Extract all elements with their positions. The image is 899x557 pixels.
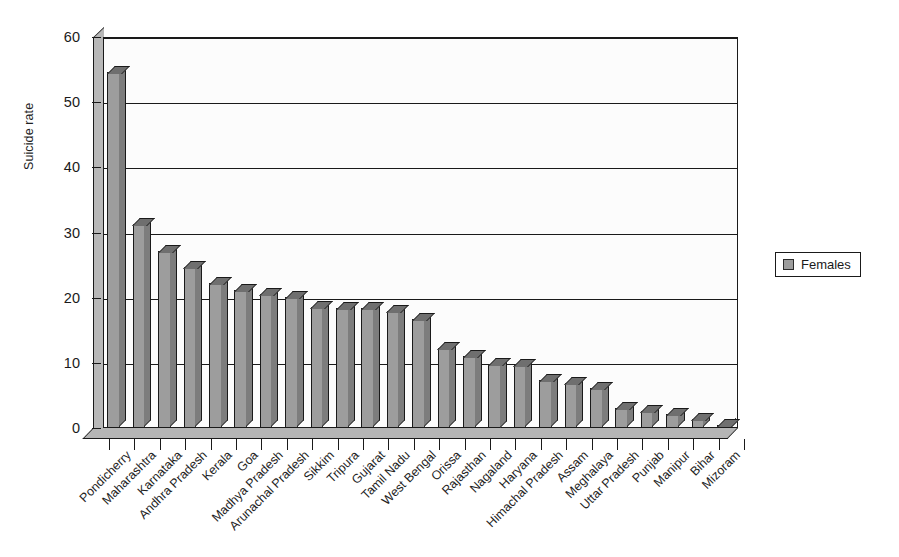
bar-side-face	[297, 291, 304, 427]
bar-top-face	[488, 358, 511, 366]
x-tick-mark	[211, 439, 212, 450]
x-tick-mark	[592, 439, 593, 450]
bar-top-face	[412, 313, 435, 321]
bar-side-face	[373, 302, 380, 427]
bar[interactable]	[387, 311, 400, 428]
bar[interactable]	[565, 383, 578, 428]
bar-top-face	[717, 419, 740, 427]
x-tick-mark	[261, 439, 262, 450]
bar-top-face	[564, 377, 587, 385]
bar-top-face	[310, 301, 333, 309]
y-tick-label: 50	[46, 95, 80, 110]
bar-side-face	[398, 305, 405, 427]
y-tick-mark	[92, 37, 101, 38]
bar[interactable]	[336, 308, 349, 428]
bar[interactable]	[514, 365, 527, 428]
bar-top-face	[615, 402, 638, 410]
x-tick-mark	[312, 439, 313, 450]
bar[interactable]	[184, 267, 197, 428]
bar-top-face	[437, 342, 460, 350]
bar[interactable]	[107, 72, 120, 428]
bar[interactable]	[209, 283, 222, 428]
x-tick-mark	[363, 439, 364, 450]
x-tick-mark	[465, 439, 466, 450]
y-tick-label: 40	[46, 160, 80, 175]
x-tick-mark	[719, 439, 720, 450]
x-tick-mark	[134, 439, 135, 450]
y-tick-label: 20	[46, 291, 80, 306]
bar[interactable]	[133, 224, 146, 428]
bar[interactable]	[412, 319, 425, 428]
x-tick-mark	[414, 439, 415, 450]
bar[interactable]	[361, 308, 374, 428]
bar[interactable]	[438, 348, 451, 428]
y-tick-label: 60	[46, 30, 80, 45]
legend-label-females: Females	[801, 258, 851, 271]
x-tick-mark	[109, 439, 110, 450]
bar-side-face	[195, 261, 202, 427]
bar[interactable]	[692, 419, 705, 428]
bar-top-face	[539, 374, 562, 382]
bar-top-face	[132, 218, 155, 226]
x-tick-mark	[338, 439, 339, 450]
x-tick-mark	[668, 439, 669, 450]
bar[interactable]	[590, 388, 603, 428]
bar[interactable]	[641, 411, 654, 428]
bar-top-face	[183, 261, 206, 269]
x-tick-mark	[642, 439, 643, 450]
bar-top-face	[691, 413, 714, 421]
bar-top-face	[158, 245, 181, 253]
y-tick-mark	[92, 298, 101, 299]
bars-layer	[103, 37, 738, 428]
bar[interactable]	[666, 414, 679, 428]
bar[interactable]	[311, 307, 324, 428]
bar-side-face	[144, 218, 151, 427]
x-tick-mark	[160, 439, 161, 450]
bar-top-face	[107, 66, 130, 74]
x-tick-mark	[617, 439, 618, 450]
bar-side-face	[525, 359, 532, 427]
bar[interactable]	[234, 290, 247, 428]
x-tick-mark	[236, 439, 237, 450]
x-tick-mark	[185, 439, 186, 450]
bar-side-face	[271, 288, 278, 427]
legend-swatch-females	[783, 259, 794, 270]
bar-side-face	[348, 302, 355, 427]
bar-top-face	[640, 405, 663, 413]
x-tick-mark	[287, 439, 288, 450]
bar-side-face	[475, 350, 482, 427]
bar-top-face	[285, 291, 308, 299]
bar-side-face	[221, 277, 228, 427]
y-tick-mark	[92, 363, 101, 364]
bar-top-face	[234, 284, 257, 292]
bar-top-face	[513, 359, 536, 367]
y-tick-mark	[92, 428, 101, 429]
bar-side-face	[424, 313, 431, 427]
bar-side-face	[246, 284, 253, 427]
y-tick-label: 30	[46, 226, 80, 241]
y-axis-title: Suicide rate	[22, 0, 42, 170]
y-tick-mark	[92, 167, 101, 168]
bar-side-face	[170, 245, 177, 427]
x-tick-mark	[515, 439, 516, 450]
bar[interactable]	[717, 425, 730, 428]
legend[interactable]: Females	[775, 252, 861, 277]
bar[interactable]	[463, 356, 476, 428]
bar-chart: Suicide rate 0102030405060 PondicherryMa…	[0, 0, 899, 557]
plot-3d-floor	[82, 428, 738, 439]
bar[interactable]	[539, 380, 552, 428]
bar[interactable]	[285, 297, 298, 428]
bar-top-face	[666, 408, 689, 416]
bar-side-face	[322, 301, 329, 427]
bar[interactable]	[158, 251, 171, 428]
x-tick-mark	[744, 439, 745, 450]
bar[interactable]	[615, 408, 628, 428]
bar-side-face	[119, 66, 126, 427]
x-tick-mark	[490, 439, 491, 450]
bar-top-face	[361, 302, 384, 310]
x-tick-mark	[439, 439, 440, 450]
x-tick-mark	[541, 439, 542, 450]
bar-side-face	[449, 342, 456, 427]
bar[interactable]	[488, 364, 501, 429]
bar[interactable]	[260, 294, 273, 428]
